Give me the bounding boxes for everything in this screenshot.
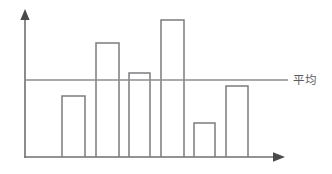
x-axis-arrow-icon [273,152,285,162]
chart-canvas: 平均 [0,0,332,174]
bar-1 [62,96,85,157]
y-axis [20,9,29,157]
bar-chart-figure: 平均 [0,0,332,174]
average-line-label: 平均 [293,73,316,87]
y-axis-arrow-icon [20,9,29,20]
bar-2 [96,43,119,157]
bar-4 [161,20,184,157]
bar-3 [129,73,150,157]
bar-6 [226,86,248,157]
bar-series [62,20,248,157]
bar-5 [194,123,215,157]
